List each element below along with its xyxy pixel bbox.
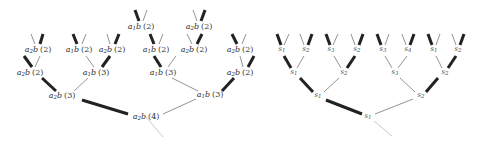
right-tree-edge xyxy=(398,56,407,68)
right-tree-edge xyxy=(284,56,291,68)
right-tree-node-label: s1 xyxy=(430,46,437,54)
left-tree-edge xyxy=(35,56,40,67)
left-tree-edge xyxy=(232,34,237,44)
left-tree-edge xyxy=(42,78,56,91)
left-tree-edge xyxy=(115,34,119,44)
left-tree-edge xyxy=(201,10,205,21)
right-tree-edge xyxy=(426,78,438,92)
right-tree-edge xyxy=(284,34,289,45)
left-tree-edge xyxy=(240,56,243,67)
right-tree-edge xyxy=(324,78,339,92)
left-tree-edge xyxy=(222,78,234,91)
left-tree-edge xyxy=(242,34,246,44)
left-tree-node-label: a2b(3) xyxy=(49,92,76,101)
right-tree-node-label: s3 xyxy=(379,46,386,54)
right-tree-edge xyxy=(308,34,312,45)
right-tree-edge xyxy=(436,34,440,45)
right-tree-edge xyxy=(347,56,355,68)
right-tree-edge xyxy=(400,78,415,92)
right-tree-edge xyxy=(402,34,406,45)
left-tree-node-label: a2b(2) xyxy=(25,46,52,55)
left-tree-node-label: a1b(3) xyxy=(197,91,224,100)
right-tree-edge xyxy=(460,34,464,45)
left-tree-edge xyxy=(40,34,43,44)
left-tree-edge xyxy=(73,34,77,44)
left-tree-edge xyxy=(248,56,254,67)
left-tree-edge xyxy=(197,34,202,44)
right-tree-edge xyxy=(375,99,413,114)
left-tree-node-label: a1b(2) xyxy=(128,23,155,32)
left-tree-node-label: a1b(3) xyxy=(150,69,177,78)
left-tree-node-label: a2b(2) xyxy=(227,46,254,55)
right-tree-edge xyxy=(448,56,456,68)
right-tree-node-label: s1 xyxy=(314,92,321,100)
right-tree-edge xyxy=(351,34,355,45)
left-tree-edge xyxy=(86,56,94,67)
right-tree-edge xyxy=(452,34,456,45)
left-tree-node-label: a2b(2) xyxy=(227,69,254,78)
right-tree-node-label: s3 xyxy=(391,69,398,77)
right-tree-edge xyxy=(377,34,381,45)
left-tree-node-label: a1b(3) xyxy=(83,69,110,78)
left-tree-edge xyxy=(159,34,163,44)
right-tree-edge xyxy=(374,121,392,136)
left-tree-edge xyxy=(82,34,86,44)
right-tree-edge xyxy=(326,100,362,114)
right-tree-node-label: s2 xyxy=(441,69,448,77)
right-tree-edge xyxy=(300,34,304,45)
left-tree-edge xyxy=(74,78,88,91)
left-tree-edge xyxy=(193,10,197,21)
left-tree-edge xyxy=(150,34,154,44)
left-tree-node-label: a2b(4) xyxy=(133,113,160,122)
right-tree-edge xyxy=(385,34,389,45)
right-tree-edge xyxy=(436,56,442,68)
right-tree-edge xyxy=(297,56,304,68)
left-tree-edge xyxy=(168,56,176,67)
left-tree-node-label: a2b(2) xyxy=(186,23,213,32)
left-tree-node-label: a2b(2) xyxy=(17,69,44,78)
left-tree-node-label: a1b(2) xyxy=(143,46,170,55)
left-tree-edge xyxy=(31,34,35,44)
right-tree-node-label: s4 xyxy=(404,46,411,54)
right-tree-node-label: s2 xyxy=(353,46,360,54)
right-tree-edge xyxy=(334,56,341,68)
right-tree-node-label: s2 xyxy=(417,92,424,100)
left-tree-edge xyxy=(143,10,147,21)
right-tree-edge xyxy=(333,34,338,45)
right-tree-edge xyxy=(359,34,363,45)
left-tree-node-label: a2b(2) xyxy=(99,46,126,55)
left-tree-edge xyxy=(187,34,192,44)
right-tree-edge xyxy=(277,34,281,45)
left-tree-edge xyxy=(135,10,139,21)
left-tree-edge xyxy=(82,100,128,114)
left-tree-edge xyxy=(24,56,32,67)
left-tree-node-label: a2b(2) xyxy=(181,46,208,55)
left-tree-edge xyxy=(102,56,110,67)
left-tree-edge xyxy=(172,78,198,91)
right-tree-node-label: s2 xyxy=(340,69,347,77)
right-tree-edge xyxy=(428,34,432,45)
right-tree-edge xyxy=(300,78,313,92)
left-tree-edge xyxy=(107,34,110,44)
right-tree-node-label: s2 xyxy=(302,46,309,54)
right-tree-node-label: s3 xyxy=(327,46,334,54)
right-tree-node-label: s2 xyxy=(454,46,461,54)
right-tree-node-label: s1 xyxy=(364,113,371,121)
right-tree-node-label: s1 xyxy=(278,46,285,54)
right-tree-edge xyxy=(410,34,414,45)
right-tree-edge xyxy=(385,56,392,68)
right-tree-edge xyxy=(326,34,330,45)
left-tree-node-label: a1b(2) xyxy=(66,46,93,55)
left-tree-edge xyxy=(163,99,196,114)
left-tree-edge xyxy=(154,56,161,67)
right-tree-node-label: s1 xyxy=(290,69,297,77)
